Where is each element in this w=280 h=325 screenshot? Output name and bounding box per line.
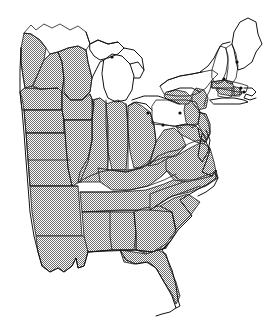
boundary-vermont	[212, 46, 228, 84]
boundary-stlawrence	[200, 42, 230, 72]
boundary-cape-cod	[244, 88, 256, 100]
marker-maine	[235, 60, 238, 63]
state-florida	[120, 250, 180, 304]
distribution-map-figure: Eastern United States distribution map	[0, 0, 280, 325]
boundary-new-hampshire	[226, 44, 238, 84]
boundary-northern-border	[160, 72, 202, 86]
state-georgia	[134, 206, 176, 254]
state-south-dakota	[24, 110, 64, 133]
map-canvas	[0, 0, 280, 325]
boundary-lake-superior-south	[86, 32, 124, 48]
state-indiana	[106, 100, 128, 170]
state-north-dakota	[20, 86, 62, 110]
boundary-long-island	[210, 98, 248, 104]
state-arkansas	[30, 186, 82, 236]
state-louisiana-mississippi	[36, 236, 88, 272]
shaded-states-layer	[20, 33, 242, 304]
state-nebraska-kansas	[26, 133, 72, 186]
boundary-florida-keys	[156, 308, 176, 316]
marker-upper-peninsula	[110, 55, 113, 58]
marker-massachusetts-coast	[239, 86, 242, 89]
marker-central-pennsylvania	[178, 111, 181, 114]
marker-rhode-island	[242, 90, 245, 93]
marker-new-hampshire	[222, 77, 225, 80]
marker-northern-ohio	[161, 123, 164, 126]
marker-western-new-york	[146, 111, 149, 114]
boundary-michigan-lp	[102, 54, 134, 102]
state-mississippi-alabama	[82, 212, 136, 252]
